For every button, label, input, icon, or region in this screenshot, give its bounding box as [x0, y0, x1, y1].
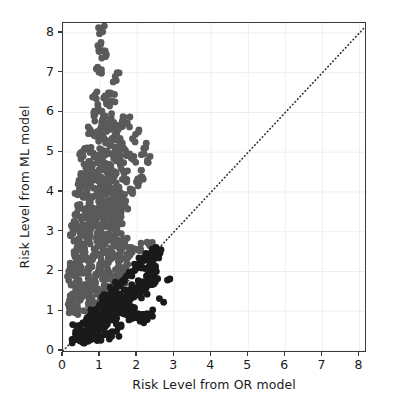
data-point — [85, 158, 92, 165]
data-point — [147, 277, 154, 284]
data-point — [92, 207, 99, 214]
data-point — [80, 242, 87, 249]
data-point — [99, 294, 106, 301]
data-point — [93, 65, 100, 72]
data-point — [96, 30, 103, 37]
data-point — [123, 176, 130, 183]
data-point — [100, 191, 107, 198]
data-point — [101, 247, 108, 254]
y-tick-mark — [58, 190, 62, 191]
data-point — [132, 310, 139, 317]
y-tick-label: 0 — [32, 343, 54, 357]
data-point — [98, 55, 105, 62]
y-tick-label: 5 — [32, 144, 54, 158]
data-point — [68, 222, 75, 229]
data-point — [95, 138, 102, 145]
data-point — [69, 291, 76, 298]
data-point — [80, 213, 87, 220]
data-point — [85, 275, 92, 282]
data-point — [112, 98, 119, 105]
data-point — [149, 269, 156, 276]
data-point — [129, 288, 136, 295]
data-point — [111, 201, 118, 208]
data-point — [78, 284, 85, 291]
data-point — [117, 256, 124, 263]
data-point — [107, 284, 114, 291]
data-point — [95, 251, 102, 258]
data-point — [119, 144, 126, 151]
y-tick-label: 8 — [32, 25, 54, 39]
data-point — [120, 167, 127, 174]
data-point — [98, 228, 105, 235]
data-point — [101, 119, 108, 126]
data-point — [91, 132, 98, 139]
data-point — [137, 247, 144, 254]
data-point — [108, 294, 115, 301]
data-point — [127, 270, 134, 277]
x-tick-label: 7 — [308, 358, 334, 372]
data-point — [88, 294, 95, 301]
data-point — [136, 255, 143, 262]
data-point — [83, 254, 90, 261]
data-point — [124, 206, 131, 213]
x-tick-mark — [321, 352, 322, 356]
data-point — [124, 261, 131, 268]
data-point — [106, 308, 113, 315]
data-point — [84, 205, 91, 212]
data-point — [129, 190, 136, 197]
data-point — [71, 248, 78, 255]
y-tick-mark — [58, 310, 62, 311]
data-point — [111, 226, 118, 233]
plot-canvas — [63, 23, 365, 351]
data-point — [115, 263, 122, 270]
data-point — [114, 69, 121, 76]
data-point — [102, 47, 109, 54]
data-point — [105, 254, 112, 261]
data-point — [128, 281, 135, 288]
x-tick-label: 4 — [197, 358, 223, 372]
data-point — [143, 257, 150, 264]
data-point — [154, 275, 161, 282]
data-point — [99, 200, 106, 207]
data-point — [89, 194, 96, 201]
data-point — [118, 322, 125, 329]
y-tick-label: 2 — [32, 263, 54, 277]
y-tick-label: 4 — [32, 184, 54, 198]
data-point — [90, 185, 97, 192]
data-point — [87, 212, 94, 219]
data-point — [138, 240, 145, 247]
y-tick-mark — [58, 270, 62, 271]
data-point — [85, 224, 92, 231]
data-point — [98, 70, 105, 77]
x-tick-mark — [247, 352, 248, 356]
data-point — [92, 152, 99, 159]
data-point — [83, 333, 90, 340]
data-point — [108, 110, 115, 117]
data-point — [66, 309, 73, 316]
y-tick-mark — [58, 349, 62, 350]
data-point — [100, 95, 107, 102]
data-point — [72, 237, 79, 244]
data-point — [86, 323, 93, 330]
data-point — [107, 244, 114, 251]
data-point — [111, 144, 118, 151]
data-point — [98, 337, 105, 344]
data-point — [114, 220, 121, 227]
data-point — [96, 302, 103, 309]
data-point — [83, 183, 90, 190]
y-tick-mark — [58, 71, 62, 72]
data-point — [83, 231, 90, 238]
data-point — [93, 216, 100, 223]
data-point — [110, 79, 117, 86]
data-point — [69, 321, 76, 328]
y-tick-label: 3 — [32, 224, 54, 238]
data-point — [107, 237, 114, 244]
y-tick-label: 7 — [32, 65, 54, 79]
data-point — [80, 177, 87, 184]
data-point — [107, 150, 114, 157]
scatter-plot-figure: Risk Level from ML model Risk Level from… — [0, 0, 395, 406]
x-tick-mark — [284, 352, 285, 356]
data-point — [114, 125, 121, 132]
data-point — [96, 126, 103, 133]
data-point — [66, 271, 73, 278]
